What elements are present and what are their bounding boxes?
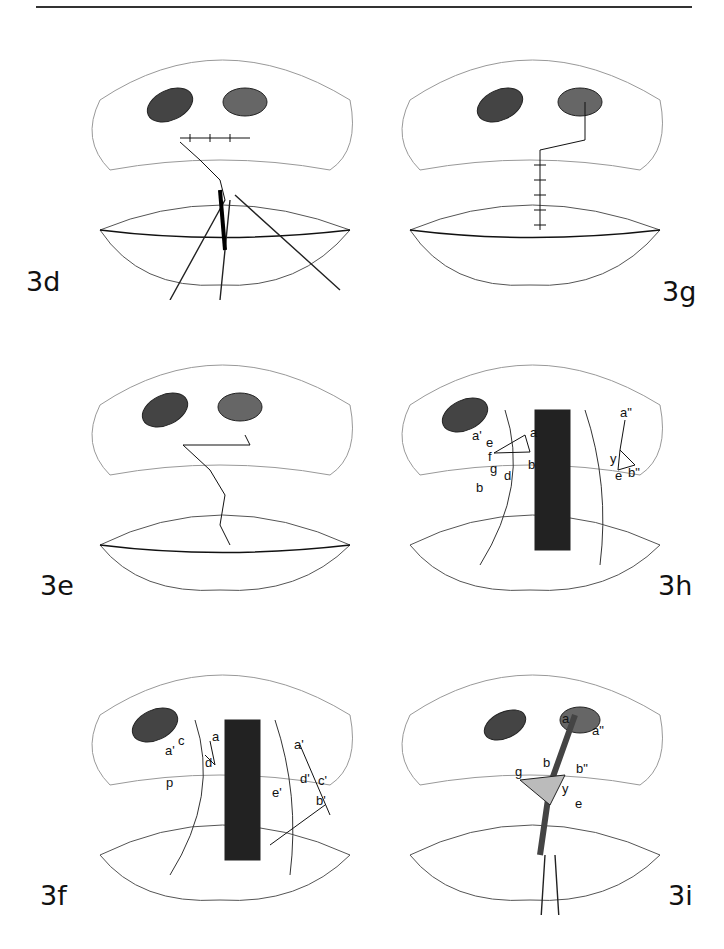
illustration-3f: a' c a p d a' d' c' e' b'	[60, 645, 380, 915]
figure-label-3i: 3i	[668, 880, 693, 911]
point-label: b	[528, 457, 535, 472]
figure-3e	[60, 335, 380, 605]
point-label: a'	[294, 737, 304, 752]
point-label: y	[562, 781, 569, 796]
illustration-3h: a' e a f g b d b a" y e b"	[370, 335, 690, 605]
figure-3i: a a" b b" g y e	[370, 645, 690, 915]
point-label: p	[166, 775, 173, 790]
point-label: b	[543, 755, 550, 770]
point-label: b	[476, 480, 483, 495]
point-label: a"	[620, 405, 632, 420]
figure-3g	[370, 30, 690, 300]
point-label: e	[615, 468, 622, 483]
figure-label-3g: 3g	[662, 276, 696, 307]
point-label: g	[490, 461, 497, 476]
point-label: b"	[576, 761, 588, 776]
point-label: g	[515, 764, 522, 779]
illustration-3i: a a" b b" g y e	[370, 645, 690, 915]
point-label: d'	[300, 771, 310, 786]
figure-label-3f: 3f	[40, 880, 67, 911]
point-label: e	[575, 796, 582, 811]
point-label: b"	[628, 465, 640, 480]
point-label: a	[562, 711, 570, 726]
figure-label-3h: 3h	[658, 570, 692, 601]
point-label: a	[530, 425, 538, 440]
point-label: e'	[272, 785, 282, 800]
illustration-3g	[370, 30, 690, 300]
point-label: e	[486, 435, 493, 450]
point-label: d	[504, 468, 511, 483]
right-nostril	[223, 88, 267, 116]
point-label: a'	[472, 428, 482, 443]
figure-3f: a' c a p d a' d' c' e' b'	[60, 645, 380, 915]
figure-label-3e: 3e	[40, 570, 74, 601]
illustration-3e	[60, 335, 380, 605]
left-nostril	[142, 81, 198, 128]
point-label: b'	[316, 793, 326, 808]
illustration-3d	[60, 30, 380, 300]
point-label: a	[212, 729, 220, 744]
point-label: c	[178, 733, 185, 748]
point-label: d	[205, 755, 212, 770]
point-label: y	[610, 451, 617, 466]
header-rule	[36, 6, 692, 8]
point-label: a"	[592, 723, 604, 738]
point-label: c'	[318, 773, 327, 788]
point-label: a'	[165, 743, 175, 758]
figure-3h: a' e a f g b d b a" y e b"	[370, 335, 690, 605]
figure-3d	[60, 30, 380, 300]
figure-label-3d: 3d	[26, 266, 60, 297]
